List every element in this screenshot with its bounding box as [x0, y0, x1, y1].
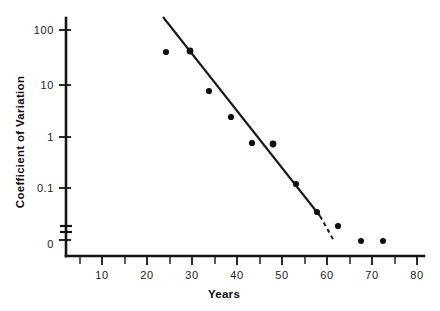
data-point	[163, 49, 169, 55]
chart-figure: 100 10 1 0.1 0 10 20 3	[0, 0, 440, 311]
x-tick-label-10: 10	[95, 269, 108, 281]
data-point	[358, 238, 364, 244]
data-point	[380, 238, 386, 244]
x-tick-label-40: 40	[230, 269, 243, 281]
x-tick-label-60: 60	[320, 269, 333, 281]
data-point	[270, 141, 277, 148]
data-point-group	[163, 48, 386, 244]
y-tick-label-1: 1	[47, 131, 54, 143]
data-point	[249, 140, 255, 146]
x-tick-label-20: 20	[140, 269, 153, 281]
data-point	[187, 48, 194, 55]
x-tick-label-50: 50	[275, 269, 288, 281]
y-tick-label-100: 100	[34, 24, 54, 36]
y-axis-title: Coefficient of Variation	[14, 76, 26, 208]
x-tick-label-80: 80	[410, 269, 423, 281]
regression-line-dashed	[320, 216, 334, 241]
x-tick-label-70: 70	[365, 269, 378, 281]
data-point	[206, 88, 212, 94]
data-point	[228, 114, 234, 120]
data-point	[314, 209, 320, 215]
data-point	[335, 223, 341, 229]
scatter-plot-svg: 100 10 1 0.1 0 10 20 3	[0, 0, 440, 311]
y-tick-label-0: 0	[47, 238, 54, 250]
y-tick-label-0.1: 0.1	[37, 182, 54, 194]
x-tick-label-30: 30	[185, 269, 198, 281]
x-axis-title: Years	[208, 288, 240, 300]
data-point	[293, 181, 299, 187]
y-tick-label-10: 10	[41, 79, 54, 91]
